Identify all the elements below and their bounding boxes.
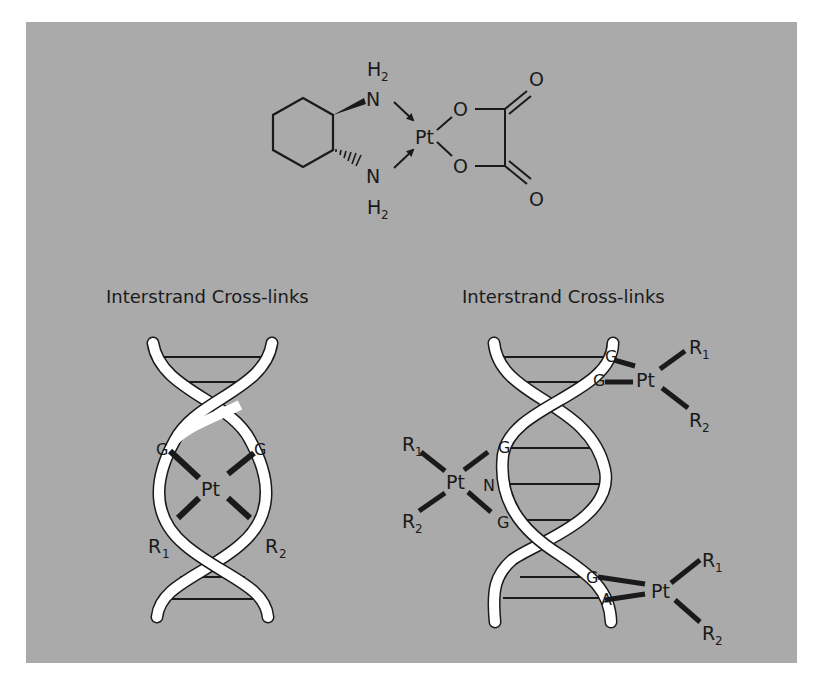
pt-bond <box>178 498 199 518</box>
guanine-label: G <box>605 347 617 366</box>
platinum-label: Pt <box>201 478 220 500</box>
right-panel-title: Interstrand Cross-links <box>462 286 665 307</box>
left-panel-title: Interstrand Cross-links <box>106 286 309 307</box>
r1-subscript: 1 <box>162 547 170 561</box>
carbonyl-top-1 <box>505 91 527 109</box>
guanine-label-right: G <box>254 440 266 459</box>
oxygen-carbonyl-top: O <box>529 68 544 90</box>
pt-bond <box>228 453 254 474</box>
right-crosslink-diagram: Interstrand Cross-links G G Pt R 1 R 2 G… <box>402 286 723 648</box>
r2-label: R <box>702 622 715 644</box>
pt-bond <box>228 498 250 518</box>
dative-arrow-bottom <box>394 150 413 168</box>
platinum-label: Pt <box>651 580 670 602</box>
cyclohexane-ring <box>273 98 333 167</box>
pt-bond <box>671 560 700 583</box>
r2-subscript: 2 <box>415 522 423 536</box>
platinum-atom: Pt <box>415 126 434 148</box>
guanine-label: G <box>498 438 510 457</box>
pt-bond <box>660 351 685 369</box>
pt-bond <box>598 577 645 584</box>
r1-subscript: 1 <box>415 445 423 459</box>
amine-h-bottom-subscript: 2 <box>381 208 389 222</box>
oxaliplatin-structure: N N H 2 H 2 Pt O O O O <box>273 58 544 222</box>
oxygen-ring-bottom: O <box>453 155 468 177</box>
amine-h-bottom: H <box>367 196 381 218</box>
r2-label: R <box>689 409 702 431</box>
amine-n-bottom: N <box>366 165 380 187</box>
pt-bond <box>675 600 700 622</box>
guanine-label: G <box>586 568 598 587</box>
r1-label: R <box>402 433 415 455</box>
adenine-label: A <box>601 590 612 609</box>
r2-subscript: 2 <box>702 421 710 435</box>
amine-n-top: N <box>366 88 380 110</box>
guanine-label: G <box>593 371 605 390</box>
pt-bond <box>464 452 488 470</box>
guanine-label-left: G <box>156 440 168 459</box>
r2-subscript: 2 <box>279 547 287 561</box>
pt-bond <box>468 492 491 512</box>
pt-bond <box>419 493 445 511</box>
dative-arrow-top <box>394 102 413 120</box>
amine-h-top: H <box>367 58 381 80</box>
r2-subscript: 2 <box>715 634 723 648</box>
guanine-label: G <box>497 513 509 532</box>
nitrogen-label: N <box>483 476 495 495</box>
platinum-label: Pt <box>636 369 655 391</box>
pt-o-bond-bottom <box>437 142 452 156</box>
oxygen-ring-top: O <box>453 98 468 120</box>
r1-label: R <box>702 549 715 571</box>
amine-h-top-subscript: 2 <box>381 70 389 84</box>
pt-bond <box>662 388 688 408</box>
r1-label: R <box>689 336 702 358</box>
pt-bond <box>421 452 445 471</box>
r1-subscript: 1 <box>715 561 723 575</box>
pt-bond <box>170 451 199 478</box>
carbonyl-top-2 <box>509 96 531 114</box>
wedge-bond <box>333 98 366 115</box>
pt-o-bond-top <box>437 117 452 130</box>
platinum-label: Pt <box>446 471 465 493</box>
carbonyl-bottom-2 <box>509 161 531 179</box>
carbonyl-bottom-1 <box>505 166 527 184</box>
r1-subscript: 1 <box>702 348 710 362</box>
left-crosslink-diagram: Interstrand Cross-links G G Pt R 1 R 2 <box>106 286 309 617</box>
r2-label: R <box>265 535 278 557</box>
oxygen-carbonyl-bottom: O <box>529 188 544 210</box>
hashed-bond <box>336 149 361 166</box>
r2-label: R <box>402 510 415 532</box>
diagram-canvas: N N H 2 H 2 Pt O O O O Interstrand Cross… <box>0 0 823 677</box>
r1-label: R <box>148 535 161 557</box>
